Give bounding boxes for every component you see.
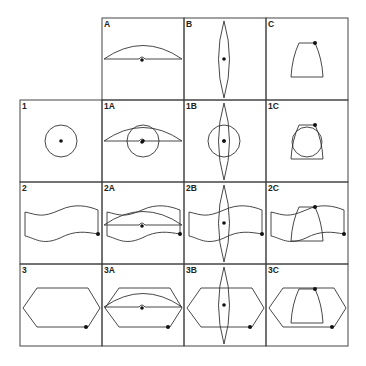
cell-2C: 2C [266,182,348,264]
cell-1C: 1C [266,100,348,182]
cell-label: 1A [104,101,115,111]
cell-label: 2A [104,183,115,193]
cell-B: B [184,18,266,100]
cell-2: 2 [20,182,102,264]
cell-label: 1B [186,101,197,111]
cell-1: 1 [20,100,102,182]
cell-1A: 1A [102,100,184,182]
cell-C: C [266,18,348,100]
cell-label: A [104,19,110,29]
cell-2B: 2B [184,182,266,264]
cell-label: 2C [268,183,279,193]
cell-A: A [102,18,184,100]
cell-label: 1 [22,101,27,111]
cell-label: C [268,19,274,29]
cell-3A: 3A [102,264,184,346]
cell-3B: 3B [184,264,266,346]
cell-1B: 1B [184,100,266,182]
cell-label: 1C [268,101,279,111]
shape-combination-grid: A B C 1 1A 1B 1C 2 [0,0,366,366]
cell-label: B [186,19,192,29]
cell-label: 3 [22,265,27,275]
cell-label: 3B [186,265,197,275]
cell-2A: 2A [102,182,184,264]
cell-label: 2B [186,183,197,193]
cell-label: 3A [104,265,115,275]
cell-3: 3 [20,264,102,346]
cell-label: 2 [22,183,27,193]
cell-3C: 3C [266,264,348,346]
cell-label: 3C [268,265,279,275]
